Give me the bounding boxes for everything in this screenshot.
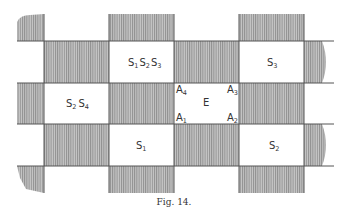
label-a2: A2: [227, 112, 238, 125]
label-a3: A3: [227, 84, 238, 97]
label-s2: S2: [269, 140, 280, 153]
label-s1: S1: [136, 140, 147, 153]
label-a4: A4: [176, 84, 187, 97]
label-a1: A1: [176, 112, 187, 125]
label-s2s4: S2S4: [66, 98, 89, 111]
figure-caption: Fig. 14.: [0, 197, 348, 207]
label-s3: S3: [267, 57, 278, 70]
label-s1s2s3: S1S2S3: [128, 57, 162, 70]
checkerboard-diagram: S1S2S3 S2S4 S3 S1 S2 E A4 A3 A1 A2: [0, 0, 348, 213]
label-e: E: [203, 97, 209, 108]
